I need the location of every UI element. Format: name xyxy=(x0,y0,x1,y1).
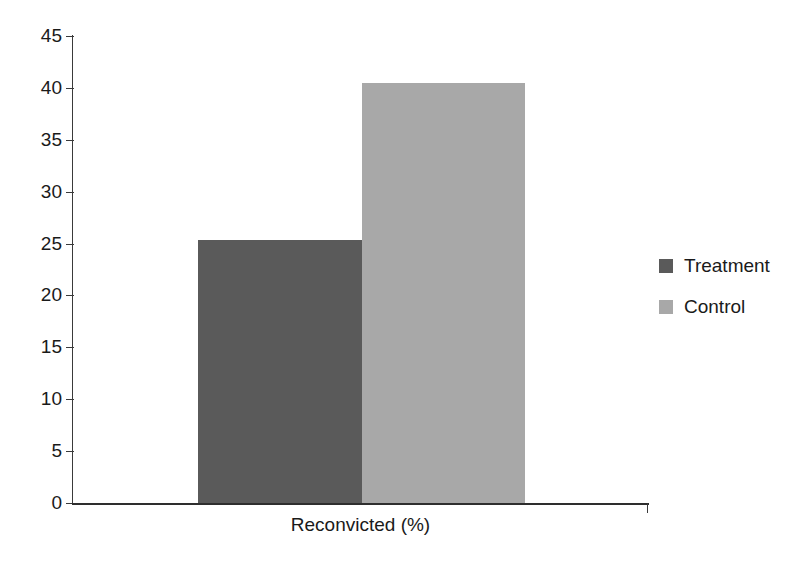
bar-treatment[interactable] xyxy=(198,240,362,503)
y-tick-label-wrap: 0 xyxy=(0,493,62,512)
legend-label-treatment: Treatment xyxy=(684,256,770,275)
y-tick-label-wrap: 10 xyxy=(0,389,62,408)
y-tick-label-wrap: 35 xyxy=(0,130,62,149)
y-tick-label-wrap: 5 xyxy=(0,441,62,460)
legend-item-control[interactable]: Control xyxy=(659,296,770,317)
y-tick-label: 5 xyxy=(6,441,62,460)
plot-area xyxy=(73,36,648,503)
y-tick-label: 35 xyxy=(6,130,62,149)
legend-item-treatment[interactable]: Treatment xyxy=(659,255,770,276)
y-tick-label: 25 xyxy=(6,234,62,253)
bar-chart: 454035302520151050 Reconvicted (%) Treat… xyxy=(0,0,807,569)
y-tick-label-wrap: 20 xyxy=(0,285,62,304)
y-tick-label-wrap: 15 xyxy=(0,337,62,356)
x-axis-end-tick xyxy=(647,503,648,513)
y-tick-label: 20 xyxy=(6,285,62,304)
chart-legend: Treatment Control xyxy=(659,255,770,337)
y-tick-label: 45 xyxy=(6,26,62,45)
x-axis-label: Reconvicted (%) xyxy=(73,514,648,536)
y-tick-label-wrap: 30 xyxy=(0,182,62,201)
y-tick-label: 40 xyxy=(6,78,62,97)
y-tick-label-wrap: 45 xyxy=(0,26,62,45)
y-tick-label: 0 xyxy=(6,493,62,512)
bar-control[interactable] xyxy=(362,83,525,503)
y-tick-label: 30 xyxy=(6,182,62,201)
legend-swatch-control-icon xyxy=(659,300,673,314)
y-tick-label-wrap: 25 xyxy=(0,234,62,253)
y-tick-label: 10 xyxy=(6,389,62,408)
x-axis-line xyxy=(72,503,649,505)
y-tick-label: 15 xyxy=(6,337,62,356)
y-tick-label-wrap: 40 xyxy=(0,78,62,97)
legend-label-control: Control xyxy=(684,297,745,316)
legend-swatch-treatment-icon xyxy=(659,259,673,273)
